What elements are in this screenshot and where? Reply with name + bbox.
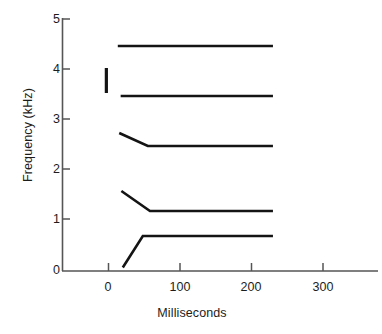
formant-track-f2 (121, 191, 273, 211)
formant-tracks (118, 46, 273, 268)
formant-track-f1 (123, 236, 273, 268)
plot-area (0, 0, 382, 334)
formant-track-f3 (119, 133, 273, 146)
chart-figure: Frequency (kHz) 5 4 3 2 1 0 0 100 200 30… (0, 0, 382, 334)
